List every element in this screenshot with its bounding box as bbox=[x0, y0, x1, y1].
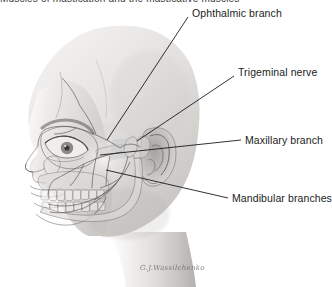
artist-credit: G.J.Wassilchenko bbox=[140, 264, 205, 272]
label-trigeminal-nerve: Trigeminal nerve bbox=[238, 66, 317, 78]
label-maxillary-branch: Maxillary branch bbox=[245, 134, 323, 146]
label-mandibular-branches: Mandibular branches bbox=[232, 192, 332, 204]
label-ophthalmic-branch: Ophthalmic branch bbox=[192, 7, 282, 19]
clipped-heading: Muscles of mastication and the masticati… bbox=[0, 0, 240, 2]
